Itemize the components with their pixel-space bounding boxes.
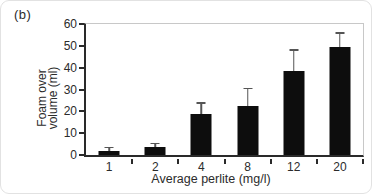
y-axis-tick-label: 10 — [47, 126, 77, 140]
y-axis-tick — [79, 110, 84, 112]
y-axis-tick — [79, 132, 84, 134]
error-bar-line — [293, 51, 295, 71]
error-bar-cap — [197, 102, 206, 104]
y-axis-tick-label: 60 — [47, 17, 77, 31]
y-axis-tick-label: 20 — [47, 104, 77, 118]
y-axis-tick — [79, 154, 84, 156]
bar-20 — [329, 47, 350, 155]
x-axis-title: Average perlite (mg/l) — [71, 172, 351, 186]
error-bar-cap — [151, 143, 160, 145]
y-axis-tick-label: 40 — [47, 61, 77, 75]
x-axis-tick — [270, 159, 272, 164]
bar-4 — [191, 114, 212, 155]
error-bar-line — [339, 34, 341, 47]
bar-8 — [237, 106, 258, 155]
y-axis-tick — [79, 67, 84, 69]
plot-area: 010203040506012481220 — [84, 23, 364, 157]
error-bar-cap — [289, 49, 298, 51]
error-bar-line — [247, 89, 249, 106]
bar-1 — [99, 151, 120, 155]
error-bar-cap — [335, 32, 344, 34]
error-bar-cap — [243, 88, 252, 90]
y-axis-tick — [79, 23, 84, 25]
y-axis-title-line2: volume (ml) — [48, 67, 59, 130]
panel-label: (b) — [14, 7, 31, 22]
error-bar-line — [201, 104, 203, 114]
bar-2 — [145, 147, 166, 155]
y-axis-tick — [79, 45, 84, 47]
y-axis-tick-label: 50 — [47, 39, 77, 53]
figure-panel: (b) Foam over volume (ml) 01020304050601… — [0, 0, 372, 194]
x-axis-tick — [177, 159, 179, 164]
x-axis-tick — [224, 159, 226, 164]
y-axis-tick-label: 0 — [47, 148, 77, 162]
error-bar-cap — [105, 147, 114, 149]
x-axis-tick — [131, 159, 133, 164]
bar-12 — [283, 71, 304, 155]
y-axis-title: Foam over volume (ml) — [37, 67, 59, 130]
x-axis-tick — [316, 159, 318, 164]
y-axis-tick-label: 30 — [47, 83, 77, 97]
y-axis-tick — [79, 89, 84, 91]
x-axis-tick — [362, 159, 364, 164]
